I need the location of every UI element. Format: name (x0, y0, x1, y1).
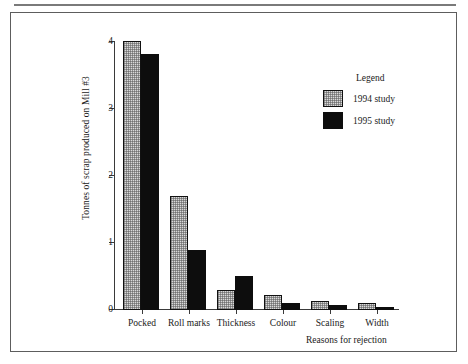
x-tick-mark-scaling (330, 310, 331, 314)
y-tick-label-1: 1 (91, 238, 113, 248)
x-tick-mark-colour (283, 310, 284, 314)
bar-scaling-1994[interactable] (311, 301, 329, 310)
legend-item-1994[interactable]: 1994 study (323, 90, 433, 107)
bar-colour-1995[interactable] (282, 303, 300, 310)
page-horizontal-rule (14, 4, 456, 6)
bar-thickness-1995[interactable] (235, 276, 253, 310)
legend-swatch-1995-icon (323, 112, 343, 129)
x-tick-mark-roll-marks (189, 310, 190, 314)
x-axis-title: Reasons for rejection (306, 335, 387, 345)
legend-label-1995: 1995 study (353, 116, 395, 126)
chart-legend: Legend 1994 study 1995 study (323, 73, 433, 134)
figure-frame: Tonnes of scrap produced on Mill #3 0 1 … (10, 12, 457, 352)
bar-width-1995[interactable] (376, 307, 394, 310)
y-tick-label-4: 4 (91, 37, 113, 47)
x-axis-label-width: Width (346, 318, 408, 329)
y-tick-label-2: 2 (91, 171, 113, 181)
x-tick-mark-width (377, 310, 378, 314)
y-tick-label-0: 0 (91, 305, 113, 315)
bar-roll-marks-1995[interactable] (188, 250, 206, 311)
bar-thickness-1994[interactable] (217, 290, 235, 310)
x-tick-mark-thickness (236, 310, 237, 314)
bar-scaling-1995[interactable] (329, 305, 347, 310)
x-tick-mark-pocked (142, 310, 143, 314)
bar-pocked-1994[interactable] (123, 41, 141, 310)
bar-roll-marks-1994[interactable] (170, 196, 188, 310)
legend-item-1995[interactable]: 1995 study (323, 112, 433, 129)
y-axis-title: Tonnes of scrap produced on Mill #3 (81, 48, 91, 248)
legend-title: Legend (356, 73, 433, 83)
legend-label-1994: 1994 study (353, 94, 395, 104)
bar-width-1994[interactable] (358, 303, 376, 310)
bar-pocked-1995[interactable] (141, 54, 159, 310)
y-tick-label-3: 3 (91, 104, 113, 114)
bar-colour-1994[interactable] (264, 295, 282, 310)
legend-swatch-1994-icon (323, 90, 343, 107)
